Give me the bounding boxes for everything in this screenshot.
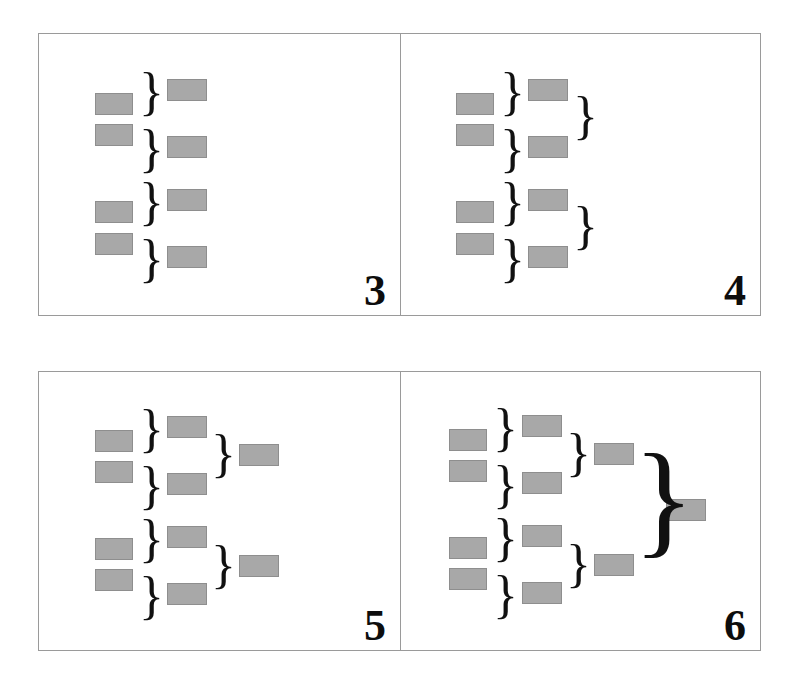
leaf-box-1: [95, 430, 133, 452]
level2-box-4: [167, 583, 207, 605]
level2-box-1: [167, 416, 207, 438]
leaf-box-1: [456, 93, 494, 115]
panel-number-label: 4: [724, 269, 746, 313]
level2-box-2: [528, 136, 568, 158]
level3-box-2: [239, 555, 279, 577]
panel-3-content: }}}}3: [39, 34, 400, 315]
panel-5: }}}}}}5: [38, 371, 401, 651]
level2-box-3: [167, 189, 207, 211]
brace-2-icon: }: [500, 123, 525, 175]
brace-4-icon: }: [139, 570, 164, 622]
leaf-box-1: [95, 93, 133, 115]
brace-level2-2-icon: }: [211, 539, 236, 591]
brace-4-icon: }: [500, 233, 525, 285]
leaf-box-2: [95, 461, 133, 483]
brace-2-icon: }: [139, 460, 164, 512]
brace-1-icon: }: [500, 66, 525, 118]
level2-box-4: [167, 246, 207, 268]
level2-box-1: [522, 415, 562, 437]
leaf-box-4: [456, 233, 494, 255]
level2-box-3: [528, 189, 568, 211]
brace-4-icon: }: [139, 233, 164, 285]
panel-6-content: }}}}}}}6: [401, 372, 760, 650]
panel-3: }}}}3: [38, 33, 401, 316]
level2-box-1: [167, 79, 207, 101]
leaf-box-2: [449, 460, 487, 482]
brace-2-icon: }: [139, 123, 164, 175]
brace-level2-1-icon: }: [211, 428, 236, 480]
brace-level3-1-icon: }: [633, 434, 694, 562]
panel-number-label: 5: [364, 604, 386, 648]
brace-level2-1-icon: }: [566, 427, 591, 479]
panel-4-content: }}}}}}4: [401, 34, 760, 315]
leaf-box-4: [95, 233, 133, 255]
level2-box-3: [167, 526, 207, 548]
leaf-box-4: [449, 568, 487, 590]
leaf-box-3: [456, 201, 494, 223]
brace-level2-2-icon: }: [566, 538, 591, 590]
panel-6: }}}}}}}6: [400, 371, 761, 651]
brace-4-icon: }: [493, 569, 518, 621]
brace-3-icon: }: [139, 513, 164, 565]
level2-box-1: [528, 79, 568, 101]
brace-1-icon: }: [493, 402, 518, 454]
brace-2-icon: }: [493, 459, 518, 511]
brace-1-icon: }: [139, 66, 164, 118]
leaf-box-4: [95, 569, 133, 591]
level2-box-3: [522, 525, 562, 547]
leaf-box-3: [95, 201, 133, 223]
leaf-box-2: [456, 124, 494, 146]
panel-5-content: }}}}}}5: [39, 372, 400, 650]
leaf-box-2: [95, 124, 133, 146]
level2-box-4: [522, 582, 562, 604]
brace-3-icon: }: [139, 176, 164, 228]
level2-box-2: [522, 472, 562, 494]
brace-level2-2-icon: }: [573, 200, 598, 252]
panel-number-label: 3: [364, 269, 386, 313]
level2-box-2: [167, 136, 207, 158]
panel-4: }}}}}}4: [400, 33, 761, 316]
leaf-box-3: [449, 537, 487, 559]
leaf-box-3: [95, 538, 133, 560]
figure-canvas: }}}}3}}}}}}4}}}}}}5}}}}}}}6: [0, 0, 789, 673]
panel-number-label: 6: [724, 604, 746, 648]
leaf-box-1: [449, 429, 487, 451]
brace-3-icon: }: [493, 512, 518, 564]
level3-box-2: [594, 554, 634, 576]
brace-3-icon: }: [500, 176, 525, 228]
brace-level2-1-icon: }: [573, 90, 598, 142]
level2-box-2: [167, 473, 207, 495]
level2-box-4: [528, 246, 568, 268]
level3-box-1: [239, 444, 279, 466]
level3-box-1: [594, 443, 634, 465]
brace-1-icon: }: [139, 403, 164, 455]
